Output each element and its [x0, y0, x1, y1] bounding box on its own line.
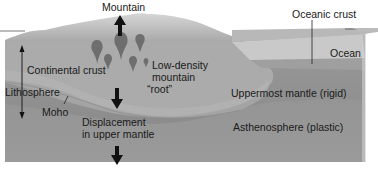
- label-lithosphere: Lithosphere: [5, 87, 60, 98]
- label-root-line3: “root”: [147, 84, 172, 95]
- block-edge: [362, 34, 366, 162]
- label-asthenosphere: Asthenosphere (plastic): [233, 122, 343, 133]
- label-root-line2: mountain: [152, 72, 195, 83]
- label-mountain: Mountain: [102, 2, 145, 13]
- label-root-line1: Low-density: [152, 60, 208, 71]
- label-continental-crust: Continental crust: [27, 65, 106, 76]
- label-oceanic-crust: Oceanic crust: [292, 9, 356, 20]
- label-ocean: Ocean: [330, 48, 361, 59]
- label-displacement-line1: Displacement: [82, 117, 146, 128]
- label-displacement-line2: in upper mantle: [82, 129, 154, 140]
- isostasy-diagram: Mountain Oceanic crust Ocean Continental…: [0, 0, 378, 174]
- label-uppermost-mantle: Uppermost mantle (rigid): [231, 88, 347, 99]
- label-moho: Moho: [42, 107, 68, 118]
